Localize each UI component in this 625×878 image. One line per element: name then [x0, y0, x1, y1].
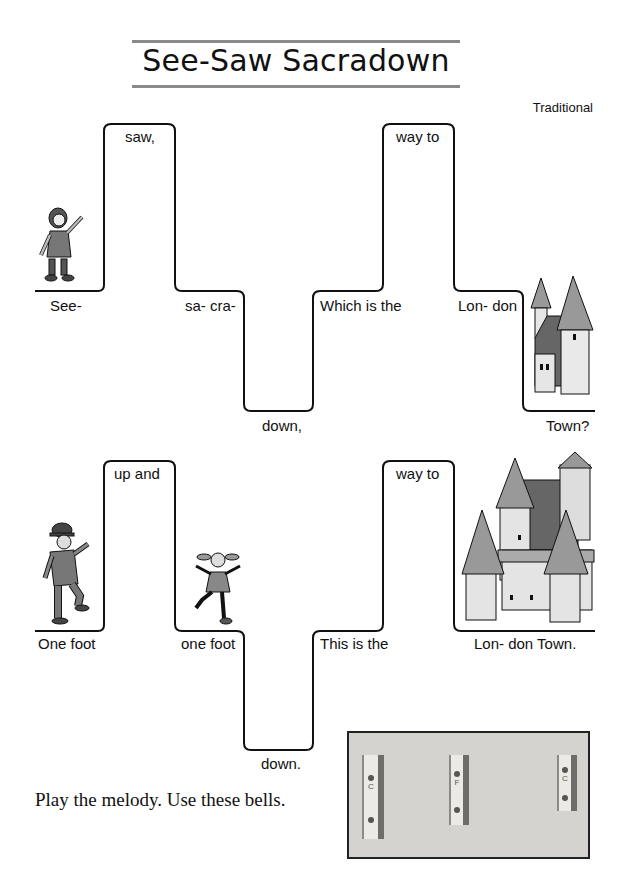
instruction-text: Play the melody. Use these bells. — [35, 789, 285, 811]
small-castle-illustration — [527, 276, 597, 406]
lyric-saw: saw, — [125, 128, 155, 145]
large-castle-illustration — [460, 450, 600, 625]
girl-pointing-illustration — [36, 205, 88, 285]
lyric-down-period: down. — [261, 755, 301, 772]
bell-hole-icon — [454, 771, 460, 777]
lyric-lon-don: Lon- don — [458, 297, 517, 314]
man-in-bowler-hat-illustration — [40, 520, 98, 626]
bell-hole-icon — [454, 807, 460, 813]
lyric-up-and: up and — [114, 465, 160, 482]
lyric-way-to: way to — [396, 128, 439, 145]
bell-note-label: C — [364, 782, 378, 791]
lyric-see: See- — [50, 297, 82, 314]
lyric-way-to-2: way to — [396, 465, 439, 482]
lyric-london-town: Lon- don Town. — [474, 635, 576, 652]
bell-note-label: C — [559, 774, 571, 783]
lyric-this-is-the: This is the — [320, 635, 388, 652]
lyric-down: down, — [262, 417, 302, 434]
lyric-which-is-the: Which is the — [320, 297, 402, 314]
bell-hole-icon — [562, 795, 568, 801]
lyric-one-foot: One foot — [38, 635, 96, 652]
bells-photo: C F C — [347, 731, 590, 859]
lyric-town: Town? — [546, 417, 589, 434]
girl-jumping-illustration — [190, 548, 248, 628]
bell-c-low[interactable]: C — [362, 755, 384, 839]
bell-c-high[interactable]: C — [557, 755, 577, 811]
lyric-sa-cra: sa- cra- — [185, 297, 236, 314]
lyric-one-foot-2: one foot — [181, 635, 235, 652]
bell-note-label: F — [451, 778, 463, 787]
bell-hole-icon — [368, 817, 374, 823]
bell-f[interactable]: F — [449, 755, 469, 825]
bell-hole-icon — [562, 767, 568, 773]
bell-hole-icon — [368, 775, 374, 781]
